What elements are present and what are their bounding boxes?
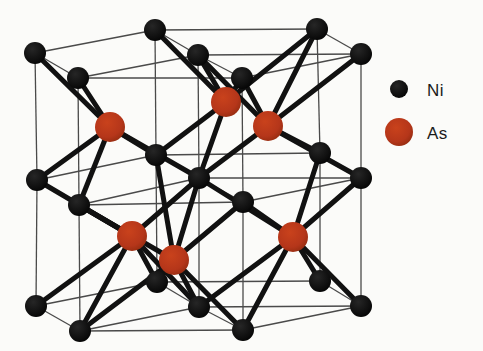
legend-label-as: As [427,124,448,143]
legend-marker-as-icon [385,118,413,146]
ni-atom [68,194,90,216]
ni-atom [25,295,47,317]
as-atom [211,87,241,117]
as-atom [253,111,283,141]
crystal-structure-canvas: Ni As [0,0,483,351]
legend-marker-ni-icon [390,80,408,98]
as-atom [278,222,308,252]
ni-atom [306,18,328,40]
ni-atom [67,67,89,89]
ni-atom [188,296,210,318]
ni-atom [26,169,48,191]
ni-atom [350,295,372,317]
ni-atom [145,144,167,166]
ni-atom [69,320,91,342]
ni-atom [231,67,253,89]
ni-atom [188,167,210,189]
ni-atom [232,319,254,341]
as-atom [117,221,147,251]
ni-atom [350,167,372,189]
ni-atom [350,43,372,65]
ni-atom [24,42,46,64]
as-atom [95,112,125,142]
ni-atom [309,270,331,292]
ni-atom [232,191,254,213]
ni-atom [309,142,331,164]
as-atom [159,245,189,275]
ni-atom [187,44,209,66]
crystal-structure-figure: Ni As [0,0,483,351]
legend-label-ni: Ni [427,81,444,100]
ni-atom [144,19,166,41]
ni-atom [146,271,168,293]
